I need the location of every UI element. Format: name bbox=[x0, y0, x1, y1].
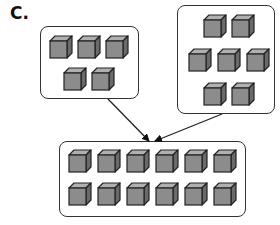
arrow-2 bbox=[155, 114, 222, 141]
arrows bbox=[0, 0, 280, 225]
arrow-1 bbox=[108, 99, 149, 141]
